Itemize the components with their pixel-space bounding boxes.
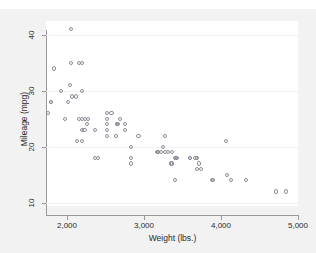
- y-tick: [42, 91, 46, 92]
- x-tick-label: 3,000: [134, 221, 154, 230]
- y-tick: [42, 35, 46, 36]
- y-tick-label: 40: [27, 31, 36, 40]
- data-point: [173, 156, 177, 160]
- data-point: [118, 117, 122, 121]
- data-point: [105, 134, 109, 138]
- x-tick-label: 4,000: [211, 221, 231, 230]
- y-axis-line: [46, 30, 47, 216]
- data-point: [123, 128, 127, 132]
- data-point: [69, 61, 73, 65]
- data-point: [59, 89, 63, 93]
- data-point: [136, 134, 140, 138]
- x-tick-label: 2,000: [57, 221, 77, 230]
- data-point: [82, 128, 86, 132]
- x-tick: [144, 216, 145, 220]
- gridline: [46, 147, 298, 148]
- data-point: [105, 128, 109, 132]
- data-point: [161, 145, 165, 149]
- y-axis-title: Mileage (mpg): [19, 49, 29, 189]
- plot-region: [46, 21, 298, 206]
- scatter-plot-figure: 2,0003,0004,0005,000 10203040 Weight (lb…: [0, 9, 316, 253]
- data-point: [74, 94, 78, 98]
- data-point: [114, 134, 118, 138]
- data-point: [284, 189, 288, 193]
- data-point: [109, 111, 113, 115]
- data-point: [195, 156, 199, 160]
- y-tick: [42, 147, 46, 148]
- y-tick: [42, 203, 46, 204]
- x-tick: [298, 216, 299, 220]
- clipped-text-strip: g p y g g g: [0, 0, 316, 9]
- x-tick-label: 5,000: [288, 221, 308, 230]
- data-point: [129, 156, 133, 160]
- data-point: [224, 139, 228, 143]
- x-axis-title: Weight (lbs.): [46, 233, 299, 243]
- data-point: [225, 173, 229, 177]
- gridline: [46, 35, 298, 36]
- y-tick-label: 10: [27, 199, 36, 208]
- data-point: [105, 117, 109, 121]
- x-tick: [221, 216, 222, 220]
- data-point: [52, 66, 56, 70]
- data-point: [129, 161, 133, 165]
- data-point: [70, 94, 74, 98]
- data-point: [129, 145, 133, 149]
- x-axis-line: [46, 215, 299, 216]
- gridline: [46, 203, 298, 204]
- x-tick: [67, 216, 68, 220]
- data-point: [77, 117, 81, 121]
